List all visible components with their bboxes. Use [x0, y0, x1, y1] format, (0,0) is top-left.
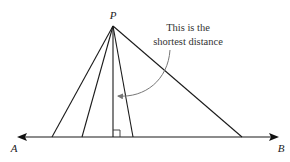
annotation-arrow [118, 50, 170, 96]
diagram-svg: P A B This is the shortest distance [0, 0, 290, 162]
segment-p-2 [82, 26, 113, 137]
point-a-label: A [10, 142, 18, 154]
segment-p-3 [113, 26, 133, 137]
right-angle-marker [113, 130, 120, 137]
annotation-line-1: This is the [166, 22, 210, 33]
annotation-line-2: shortest distance [153, 36, 223, 47]
segment-p-1 [52, 26, 113, 137]
diagram-figure: P A B This is the shortest distance [0, 0, 290, 162]
point-b-label: B [278, 142, 285, 154]
point-p-label: P [109, 9, 117, 21]
